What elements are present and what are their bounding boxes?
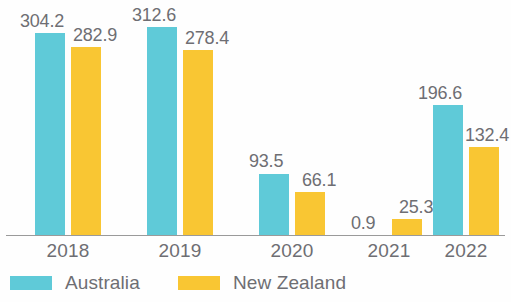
- legend-label-australia: Australia: [65, 272, 140, 294]
- value-label-2022-australia: 196.6: [418, 83, 462, 104]
- value-label-2019-new-zealand: 278.4: [185, 28, 229, 49]
- x-tick-2019: 2019: [135, 240, 225, 262]
- bar-2019-new-zealand[interactable]: [183, 50, 213, 236]
- x-tick-2020: 2020: [247, 240, 337, 262]
- bar-chart: 304.2282.9312.6278.493.566.10.925.3196.6…: [0, 0, 511, 302]
- value-label-2021-new-zealand: 25.3: [399, 197, 433, 218]
- bar-2022-australia[interactable]: [433, 105, 463, 236]
- legend-swatch-australia: [10, 276, 52, 290]
- legend-label-new-zealand: New Zealand: [233, 272, 346, 294]
- x-tick-2022: 2022: [421, 240, 511, 262]
- bar-2021-new-zealand[interactable]: [392, 219, 422, 236]
- value-label-2022-new-zealand: 132.4: [465, 125, 509, 146]
- bar-2018-australia[interactable]: [35, 33, 65, 236]
- legend-item-new-zealand[interactable]: New Zealand: [178, 272, 346, 294]
- value-label-2018-new-zealand: 282.9: [73, 25, 117, 46]
- value-label-2018-australia: 304.2: [20, 11, 64, 32]
- value-label-2021-australia: 0.9: [351, 213, 375, 234]
- legend-item-australia[interactable]: Australia: [10, 272, 140, 294]
- bar-2019-australia[interactable]: [147, 27, 177, 236]
- x-tick-2018: 2018: [23, 240, 113, 262]
- x-axis-line: [6, 235, 505, 236]
- legend-swatch-new-zealand: [178, 276, 220, 290]
- bar-2022-new-zealand[interactable]: [469, 147, 499, 236]
- value-label-2020-australia: 93.5: [249, 151, 283, 172]
- bar-2018-new-zealand[interactable]: [71, 47, 101, 236]
- plot-area: 304.2282.9312.6278.493.566.10.925.3196.6…: [0, 0, 511, 236]
- bar-2020-australia[interactable]: [259, 174, 289, 237]
- value-label-2020-new-zealand: 66.1: [302, 170, 336, 191]
- bar-2020-new-zealand[interactable]: [295, 192, 325, 236]
- chart-legend: AustraliaNew Zealand: [0, 272, 511, 298]
- x-axis-tick-labels: 20182019202020212022: [0, 240, 511, 268]
- value-label-2019-australia: 312.6: [132, 5, 176, 26]
